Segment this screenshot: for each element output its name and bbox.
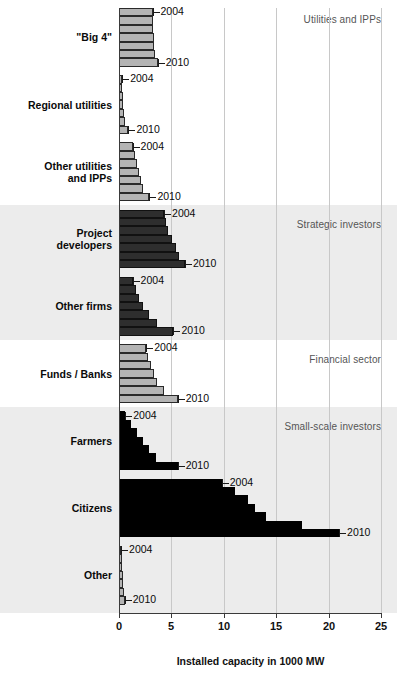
x-tick-label: 5 <box>168 620 174 632</box>
bar <box>119 344 146 352</box>
bar-group: Other20042010 <box>0 546 397 605</box>
bar <box>119 16 153 24</box>
x-tick-label: 15 <box>270 620 282 632</box>
bar <box>119 495 248 503</box>
bar <box>119 512 266 520</box>
x-tick-label: 20 <box>323 620 335 632</box>
category-label-line: Farmers <box>0 435 112 447</box>
year-label: 2010 <box>133 593 156 605</box>
category-label-line: Citizens <box>0 502 112 514</box>
leader-line <box>178 466 185 467</box>
bar <box>119 319 157 327</box>
bar <box>119 369 154 377</box>
bar-group: Citizens20042010 <box>0 479 397 538</box>
leader-line <box>122 79 129 80</box>
bar <box>119 285 136 293</box>
year-label: 2010 <box>166 56 189 68</box>
category-label-line: Funds / Banks <box>0 368 112 380</box>
bar <box>119 243 176 251</box>
bar <box>119 226 168 234</box>
year-label: 2010 <box>136 123 159 135</box>
leader-line <box>173 331 180 332</box>
year-label: 2004 <box>230 476 253 488</box>
x-tick <box>224 613 225 618</box>
bar <box>119 159 137 167</box>
category-label-line: developers <box>0 239 112 251</box>
x-axis-line <box>119 613 382 614</box>
leader-line <box>133 281 140 282</box>
x-tick-label: 0 <box>116 620 122 632</box>
leader-line <box>222 483 229 484</box>
year-label: 2004 <box>141 140 164 152</box>
year-label: 2004 <box>133 409 156 421</box>
bar-group: "Big 4"20042010 <box>0 8 397 67</box>
bar <box>119 487 235 495</box>
category-label-line: Regional utilities <box>0 99 112 111</box>
bar <box>119 252 179 260</box>
bar <box>119 310 149 318</box>
x-tick-label: 10 <box>218 620 230 632</box>
year-label: 2004 <box>172 207 195 219</box>
bar <box>119 50 155 58</box>
bar <box>119 294 139 302</box>
bar-group: Farmers20042010 <box>0 411 397 470</box>
bar <box>119 260 185 268</box>
year-label: 2004 <box>161 5 184 17</box>
bar <box>119 277 133 285</box>
bar <box>119 210 164 218</box>
bar <box>119 42 154 50</box>
leader-line <box>133 147 140 148</box>
year-label: 2010 <box>181 324 204 336</box>
bar <box>119 361 151 369</box>
bar <box>119 437 143 445</box>
bar <box>119 378 157 386</box>
x-tick-label: 25 <box>375 620 387 632</box>
bar <box>119 168 139 176</box>
category-label: Other <box>0 569 112 581</box>
bar <box>119 428 137 436</box>
bar <box>119 235 172 243</box>
year-label: 2010 <box>186 392 209 404</box>
bar <box>119 142 133 150</box>
bar <box>119 302 143 310</box>
x-tick <box>276 613 277 618</box>
category-label-line: and IPPs <box>0 172 112 184</box>
year-label: 2004 <box>141 274 164 286</box>
year-label: 2004 <box>130 72 153 84</box>
year-label: 2010 <box>186 459 209 471</box>
bar <box>119 445 149 453</box>
x-tick <box>119 613 120 618</box>
bar <box>119 58 158 66</box>
category-label: Citizens <box>0 502 112 514</box>
leader-line <box>158 63 165 64</box>
leader-line <box>121 550 128 551</box>
x-tick <box>329 613 330 618</box>
year-label: 2010 <box>347 526 370 538</box>
bar <box>119 353 148 361</box>
leader-line <box>146 348 153 349</box>
bar <box>119 126 128 134</box>
leader-line <box>125 416 132 417</box>
leader-line <box>339 533 346 534</box>
category-label-line: Project <box>0 227 112 239</box>
bar <box>119 327 173 335</box>
category-label-line: "Big 4" <box>0 31 112 43</box>
bar-group: Other utilitiesand IPPs20042010 <box>0 142 397 201</box>
bar-chart: Utilities and IPPsStrategic investorsFin… <box>0 0 397 685</box>
category-label-line: Other utilities <box>0 160 112 172</box>
bar <box>119 529 339 537</box>
bar <box>119 218 166 226</box>
bar <box>119 8 153 16</box>
category-label: Projectdevelopers <box>0 227 112 251</box>
year-label: 2010 <box>157 190 180 202</box>
x-axis-title: Installed capacity in 1000 MW <box>119 655 382 667</box>
bar <box>119 193 149 201</box>
year-label: 2010 <box>193 257 216 269</box>
leader-line <box>149 197 156 198</box>
bar <box>119 386 164 394</box>
category-label: Other utilitiesand IPPs <box>0 160 112 184</box>
category-label: Funds / Banks <box>0 368 112 380</box>
bar <box>119 176 141 184</box>
y-axis-line <box>119 8 120 614</box>
x-tick <box>171 613 172 618</box>
